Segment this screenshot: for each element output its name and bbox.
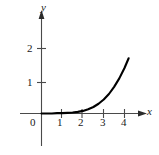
x-tick-label-3: 3 [100, 117, 106, 128]
y-tick-label-2: 2 [27, 43, 33, 54]
y-axis-label: y [41, 2, 46, 13]
plot-canvas [0, 0, 159, 155]
y-tick-label-1: 1 [27, 77, 33, 88]
data-curve [42, 58, 129, 113]
x-axis-arrowhead [138, 111, 147, 117]
graph-figure: 0 1 2 3 4 1 2 x y [0, 0, 159, 155]
x-tick-label-0: 0 [30, 117, 36, 128]
x-tick-label-4: 4 [121, 117, 127, 128]
x-tick-label-2: 2 [78, 117, 84, 128]
x-axis-label: x [147, 106, 152, 117]
x-tick-label-1: 1 [57, 117, 63, 128]
